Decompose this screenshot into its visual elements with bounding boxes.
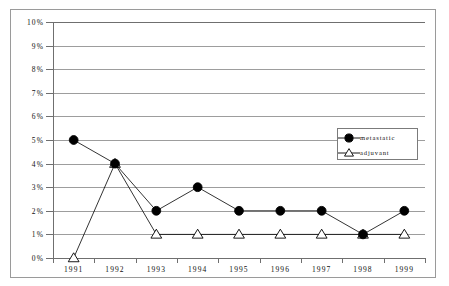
gridline xyxy=(53,258,425,259)
gridline xyxy=(53,93,425,94)
filled-circle-icon xyxy=(338,131,360,145)
x-axis-tick xyxy=(177,258,178,263)
legend-label-metastatic: metastatic xyxy=(360,134,395,141)
y-axis-label: 7% xyxy=(14,88,44,97)
x-axis-tick xyxy=(384,258,385,263)
y-axis-line xyxy=(53,22,54,258)
x-axis-tick xyxy=(94,258,95,263)
y-axis-tick xyxy=(46,258,53,259)
y-axis-tick xyxy=(46,211,53,212)
gridline xyxy=(53,69,425,70)
y-axis-tick xyxy=(46,116,53,117)
gridline xyxy=(53,46,425,47)
y-axis-tick xyxy=(46,93,53,94)
legend-item-adjuvant: adjuvant xyxy=(338,145,419,160)
y-axis-label: 2% xyxy=(14,206,44,215)
x-axis-tick xyxy=(218,258,219,263)
x-axis-tick xyxy=(260,258,261,263)
x-axis-tick xyxy=(136,258,137,263)
y-axis-label: 5% xyxy=(14,136,44,145)
y-axis-tick xyxy=(46,46,53,47)
chart-root: 0%1%2%3%4%5%6%7%8%9%10% 1991199219931994… xyxy=(0,0,449,286)
x-axis-label: 1999 xyxy=(378,265,430,274)
y-axis-label: 9% xyxy=(14,41,44,50)
x-axis-tick xyxy=(425,258,426,263)
gridline xyxy=(53,187,425,188)
legend-item-metastatic: metastatic xyxy=(338,130,419,145)
gridline xyxy=(53,116,425,117)
y-axis-tick xyxy=(46,187,53,188)
y-axis-tick xyxy=(46,234,53,235)
y-axis-label: 10% xyxy=(14,18,44,27)
x-axis-tick xyxy=(342,258,343,263)
x-axis-tick xyxy=(53,258,54,263)
y-axis-label: 3% xyxy=(14,183,44,192)
y-axis-tick xyxy=(46,69,53,70)
y-axis-label: 4% xyxy=(14,159,44,168)
y-axis-label: 6% xyxy=(14,112,44,121)
y-axis-tick xyxy=(46,140,53,141)
gridline xyxy=(53,22,425,23)
x-axis-tick xyxy=(301,258,302,263)
y-axis-label: 0% xyxy=(14,254,44,263)
y-axis-tick xyxy=(46,164,53,165)
y-axis-label: 8% xyxy=(14,65,44,74)
open-triangle-icon xyxy=(338,146,360,160)
y-axis-label: 1% xyxy=(14,230,44,239)
gridline xyxy=(53,164,425,165)
gridline xyxy=(53,211,425,212)
chart-legend: metastatic adjuvant xyxy=(337,128,418,160)
gridline xyxy=(53,234,425,235)
y-axis-tick xyxy=(46,22,53,23)
legend-label-adjuvant: adjuvant xyxy=(360,149,390,156)
